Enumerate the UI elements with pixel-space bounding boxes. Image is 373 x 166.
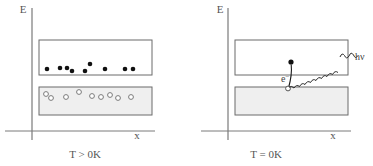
left-panel-caption: T > 0K: [69, 148, 101, 160]
hole-dot: [108, 93, 113, 98]
left-position-axis-label: x: [134, 129, 140, 141]
electron-dot: [123, 67, 128, 72]
hole-dot: [64, 95, 69, 100]
left-energy-axis-label: E: [20, 3, 27, 15]
hole-dot: [90, 94, 95, 99]
electron-dot: [131, 67, 136, 72]
photon-label: hν: [355, 51, 365, 62]
hole-dot: [44, 92, 49, 97]
hole-dot: [129, 95, 134, 100]
electron-dot: [65, 66, 70, 71]
left-valence-band: [39, 87, 152, 115]
band-diagram-figure: E x: [0, 0, 373, 166]
electron-label: e−: [281, 73, 289, 85]
electron-dot: [103, 67, 108, 72]
excited-electron-dot: [288, 59, 293, 64]
hole-dot: [99, 95, 104, 100]
electron-dot: [83, 69, 88, 74]
band-diagram-svg: E x: [0, 0, 373, 166]
right-position-axis-label: x: [330, 129, 336, 141]
electron-dot: [88, 62, 93, 67]
photon-emission-panel: E x e− hν T = 0K: [201, 3, 365, 160]
hole-dot: [49, 96, 54, 101]
hole-dot: [77, 90, 82, 95]
hole-dot: [116, 96, 121, 101]
right-energy-axis-label: E: [217, 3, 224, 15]
electron-dot: [70, 69, 75, 74]
thermal-excitation-panel: E x: [5, 3, 155, 160]
right-panel-caption: T = 0K: [250, 148, 282, 160]
right-valence-band: [235, 87, 348, 115]
electron-dot: [45, 67, 50, 72]
electron-dot: [58, 66, 63, 71]
